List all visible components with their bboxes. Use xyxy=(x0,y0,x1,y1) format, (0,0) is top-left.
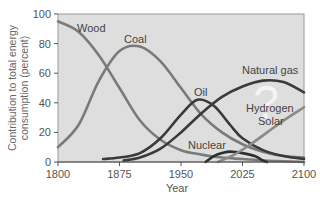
y-tick-label: 100 xyxy=(33,8,51,20)
y-tick-label: 40 xyxy=(39,97,51,109)
x-tick-label: 1875 xyxy=(107,168,131,180)
label-wood: Wood xyxy=(77,22,106,34)
label-hydrogen: Hydrogen xyxy=(246,102,294,114)
x-axis-title: Year xyxy=(166,182,189,194)
energy-chart: ? 18001875195020252100020406080100 Wood … xyxy=(0,0,325,208)
label-coal: Coal xyxy=(124,33,147,45)
x-tick-label: 2025 xyxy=(230,168,254,180)
label-natural-gas: Natural gas xyxy=(242,64,299,76)
label-oil: Oil xyxy=(194,86,207,98)
y-tick-label: 60 xyxy=(39,67,51,79)
label-solar: Solar xyxy=(258,115,284,127)
x-tick-label: 1800 xyxy=(46,168,70,180)
y-axis-title-line1: Contribution to total energy xyxy=(6,24,18,151)
y-tick-label: 20 xyxy=(39,126,51,138)
x-tick-label: 1950 xyxy=(169,168,193,180)
y-tick-label: 80 xyxy=(39,38,51,50)
y-tick-label: 0 xyxy=(45,156,51,168)
label-nuclear: Nuclear xyxy=(188,139,226,151)
x-tick-label: 2100 xyxy=(292,168,316,180)
y-axis-title-line2: consumption (percent) xyxy=(18,36,30,140)
